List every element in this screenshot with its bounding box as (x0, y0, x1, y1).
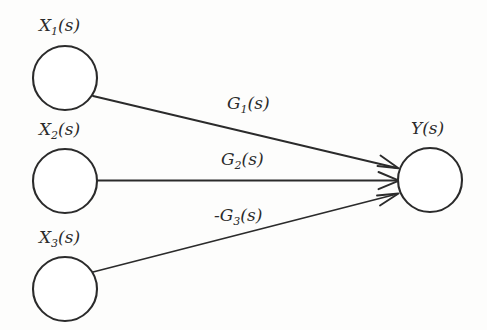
edge-g2-label-base: G (221, 149, 235, 169)
node-x3-label-base: X (39, 227, 51, 247)
edge-g1-label-base: G (227, 93, 241, 113)
edge-g3-arrowhead (377, 194, 399, 206)
node-x3-circle[interactable] (33, 257, 97, 321)
edge-g1-label-subscript: 1 (241, 103, 248, 116)
node-x2-label: X2(s) (39, 121, 80, 141)
node-x1-label-base: X (39, 15, 51, 35)
node-x1-label: X1(s) (39, 17, 80, 37)
edge-g3-label: -G3(s) (214, 207, 262, 227)
node-x2-label-argument: (s) (58, 119, 80, 139)
edge-g2-label-subscript: 2 (235, 159, 242, 172)
edge-g3-label-argument: (s) (240, 205, 262, 225)
node-x3-label-argument: (s) (58, 227, 80, 247)
node-x2-circle[interactable] (33, 149, 97, 213)
signal-flow-diagram: X1(s) X2(s) X3(s) Y(s) G1(s) G2(s) -G3(s… (0, 0, 487, 330)
node-x1-circle[interactable] (33, 46, 97, 110)
edge-g2-label: G2(s) (221, 151, 264, 171)
node-y-circle[interactable] (398, 148, 462, 212)
node-x1-label-argument: (s) (58, 15, 80, 35)
edge-g2-label-argument: (s) (242, 149, 264, 169)
edge-g1-label-argument: (s) (248, 93, 270, 113)
edge-g1-label: G1(s) (227, 95, 270, 115)
node-x3-label: X3(s) (39, 229, 80, 249)
edge-g1-arrowhead (378, 156, 399, 169)
edge-g2 (97, 172, 399, 189)
node-x2-label-base: X (39, 119, 51, 139)
node-y-label-base: Y (411, 118, 422, 138)
node-y-label: Y(s) (411, 120, 444, 137)
node-y-label-argument: (s) (422, 118, 444, 138)
edge-g3-label-base: G (220, 205, 234, 225)
